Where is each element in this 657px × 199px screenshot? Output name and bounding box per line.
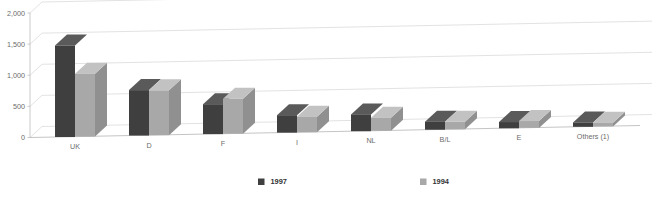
bar-front-face <box>203 104 223 134</box>
y-axis-tick-label: 0 <box>21 133 25 142</box>
x-axis-category-label: F <box>221 139 226 148</box>
y-axis-tick-label: 1,000 <box>7 71 25 80</box>
legend-item-1994[interactable]: 1994 <box>420 177 450 186</box>
bar-top-face <box>55 35 87 46</box>
y-axis-tick-label: 500 <box>13 102 25 111</box>
legend-swatch-icon <box>420 179 427 186</box>
bar-front-face <box>499 122 519 128</box>
y-axis-tick-label: 1,500 <box>7 40 25 49</box>
gridline-connector <box>30 127 42 138</box>
baseline <box>30 126 640 138</box>
bar-front-face <box>425 122 445 130</box>
legend-label: 1994 <box>433 177 450 186</box>
bar-group <box>277 104 329 132</box>
bar-front-face <box>297 117 317 133</box>
bar-f-1994 <box>223 88 255 134</box>
bar-group <box>203 88 255 134</box>
x-axis-category-label: Others (1) <box>577 132 609 141</box>
bar-front-face <box>55 46 75 138</box>
x-axis-category-label: E <box>517 133 522 142</box>
gridline <box>42 52 652 64</box>
bar-group <box>499 110 551 128</box>
x-axis-category-label: I <box>296 138 298 147</box>
x-axis-category-label: NL <box>366 136 375 145</box>
chart-canvas: 05001,0001,5002,000UKDFINLB/LEOthers (1)… <box>0 0 657 199</box>
bar-group <box>55 35 107 138</box>
bar-front-face <box>371 118 391 131</box>
x-axis-category-label: UK <box>70 142 80 151</box>
bar-group <box>425 111 477 130</box>
bar-front-face <box>223 99 243 134</box>
bar-front-face <box>351 114 371 131</box>
bar-front-face <box>573 122 593 126</box>
gridline-connector <box>30 2 42 13</box>
gridline-connector <box>30 64 42 75</box>
bar-chart: 05001,0001,5002,000UKDFINLB/LEOthers (1)… <box>0 0 657 199</box>
x-axis-category-label: B/L <box>440 135 451 144</box>
bar-group <box>351 103 403 131</box>
legend-swatch-icon <box>258 179 265 186</box>
bar-front-face <box>277 115 297 132</box>
bar-group <box>129 79 181 135</box>
gridline <box>42 0 652 2</box>
bar-front-face <box>593 123 613 127</box>
bar-front-face <box>75 74 95 137</box>
bar-front-face <box>129 90 149 135</box>
y-axis-tick-label: 2,000 <box>7 9 25 18</box>
bar-d-1994 <box>149 79 181 135</box>
gridline <box>42 21 652 33</box>
gridline-connector <box>30 95 42 106</box>
bar-front-face <box>149 90 169 135</box>
bar-uk-1994 <box>75 63 107 137</box>
bar-front-face <box>519 121 539 128</box>
bar-group <box>573 111 625 126</box>
legend-item-1997[interactable]: 1997 <box>258 177 287 186</box>
legend-label: 1997 <box>271 177 287 186</box>
gridline-connector <box>30 33 42 44</box>
bar-nl-1994 <box>371 107 403 131</box>
bar-front-face <box>445 122 465 129</box>
x-axis-category-label: D <box>146 141 151 150</box>
bar-side-face <box>95 63 107 137</box>
